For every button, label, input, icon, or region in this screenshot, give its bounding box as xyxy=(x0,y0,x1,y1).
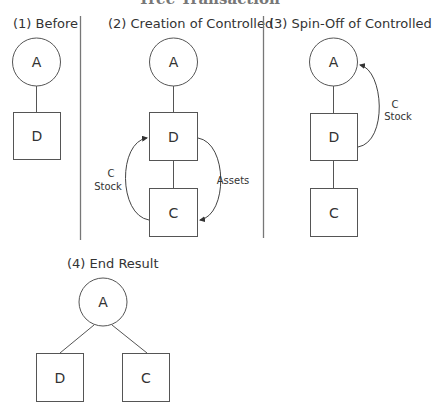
node-a-label: A xyxy=(32,54,42,70)
node-c-label: C xyxy=(169,205,179,221)
node-d-label: D xyxy=(32,128,43,144)
arrow-c-stock-to-a xyxy=(358,65,379,147)
node-a-label: A xyxy=(169,54,179,70)
node-d-label: D xyxy=(168,129,179,145)
panel-3: A D C C Stock xyxy=(310,38,413,237)
edge-label-c: C xyxy=(108,168,115,179)
node-a-label: A xyxy=(98,294,108,310)
edge-label-stock: Stock xyxy=(94,181,122,192)
edge-label-assets: Assets xyxy=(217,175,250,186)
edge-label-stock: Stock xyxy=(384,111,412,122)
edge-a-d xyxy=(60,325,94,353)
node-c-label: C xyxy=(141,370,151,386)
node-d-label: D xyxy=(329,129,340,145)
panel-1: A D xyxy=(13,38,61,160)
node-a-label: A xyxy=(329,54,339,70)
node-d-label: D xyxy=(55,370,66,386)
panel-2: A D C C Stock Assets xyxy=(94,38,249,237)
edge-label-c: C xyxy=(392,99,399,110)
arrow-c-stock-to-d xyxy=(125,138,149,220)
node-c-label: C xyxy=(329,205,339,221)
edge-a-c xyxy=(112,325,147,353)
panel-4: A D C xyxy=(37,278,170,402)
